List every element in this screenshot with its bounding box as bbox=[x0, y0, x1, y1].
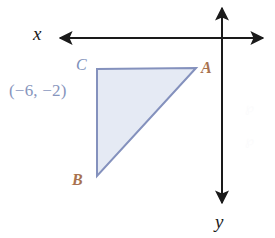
coordinate-figure: x y A B C (−6, −2) ℘ ℘ bbox=[0, 0, 275, 238]
coordinate-label: (−6, −2) bbox=[9, 82, 67, 99]
x-axis-label: x bbox=[33, 24, 41, 43]
y-axis-label: y bbox=[215, 212, 223, 231]
vertex-label-c: C bbox=[76, 57, 87, 73]
triangle-abc bbox=[97, 68, 196, 176]
vertex-label-a: A bbox=[201, 60, 212, 76]
vertex-label-b: B bbox=[72, 172, 83, 188]
